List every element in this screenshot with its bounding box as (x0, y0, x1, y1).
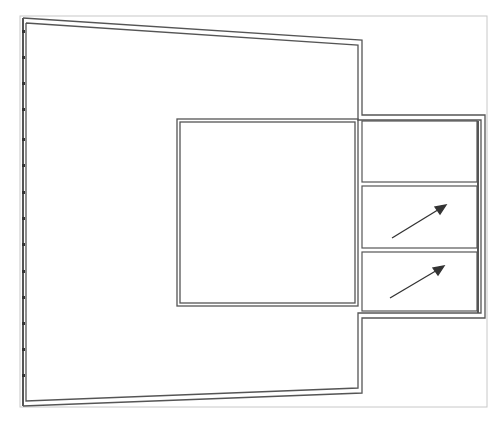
right-compartments (362, 121, 478, 313)
outer-frame (20, 16, 487, 407)
trapezoid-outline (23, 18, 485, 406)
arrow-2 (390, 266, 444, 298)
inner-square (177, 119, 358, 306)
arrow-1 (392, 205, 446, 238)
diagram-canvas (0, 0, 503, 431)
